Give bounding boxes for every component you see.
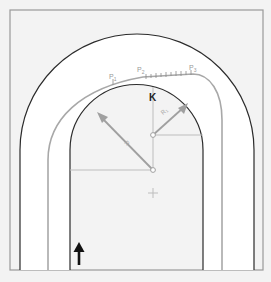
track-diagram: P1 P2 P3 K R R1 <box>0 0 271 282</box>
label-apex-k: K <box>149 92 157 103</box>
center-small-radius-icon <box>151 133 156 138</box>
center-large-radius-icon <box>151 168 156 173</box>
